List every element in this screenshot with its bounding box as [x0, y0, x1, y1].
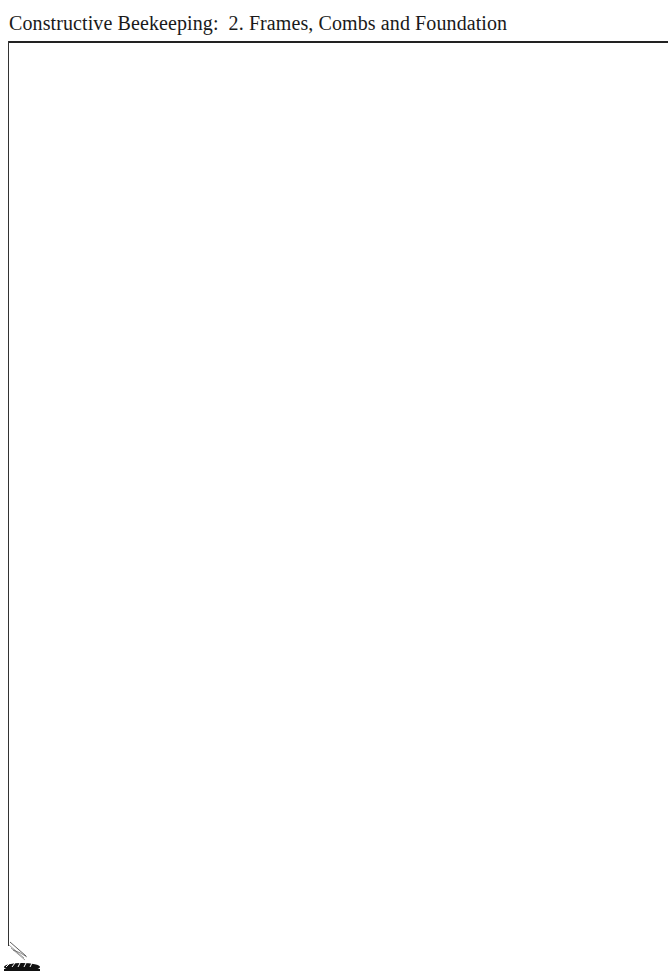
book-title: Constructive Beekeeping:: [9, 12, 219, 34]
chapter-title: 2. Frames, Combs and Foundation: [229, 12, 508, 34]
margin-rule: [8, 41, 9, 946]
header-rule: [8, 41, 668, 43]
page-header: Constructive Beekeeping:2. Frames, Combs…: [9, 12, 507, 35]
page-body: [10, 44, 665, 944]
bee-icon: [0, 940, 40, 971]
